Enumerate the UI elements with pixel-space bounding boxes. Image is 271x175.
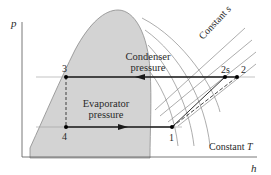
- ph-diagram: p h Condenser pressure Evaporator pressu…: [0, 0, 271, 175]
- evaporator-label-line1: Evaporator: [83, 98, 130, 109]
- variable-symbol: s: [222, 3, 233, 13]
- state-point-4: [64, 125, 68, 129]
- constant-s-text: Constant s: [196, 3, 233, 41]
- state-label-4: 4: [62, 131, 67, 142]
- condenser-label-line2: pressure: [131, 62, 166, 73]
- state-label-3: 3: [62, 63, 67, 74]
- saturation-dome: [30, 10, 151, 158]
- state-label-2s: 2s: [221, 64, 230, 75]
- state-label-1: 1: [169, 132, 174, 143]
- state-point-1: [170, 125, 174, 129]
- constant-T-label: Constant T: [209, 141, 254, 152]
- p-axis-label: p: [10, 17, 17, 29]
- actual-compression-line: [172, 77, 237, 127]
- evaporator-label-line2: pressure: [89, 109, 124, 120]
- constant-s-label: Constant s: [196, 3, 233, 41]
- h-axis-label: h: [251, 162, 257, 174]
- state-point-2: [235, 75, 239, 79]
- state-label-2: 2: [241, 64, 246, 75]
- state-point-3: [64, 75, 68, 79]
- condenser-label-line1: Condenser: [126, 51, 171, 62]
- variable-symbol: T: [247, 141, 254, 152]
- state-point-2s: [223, 75, 227, 79]
